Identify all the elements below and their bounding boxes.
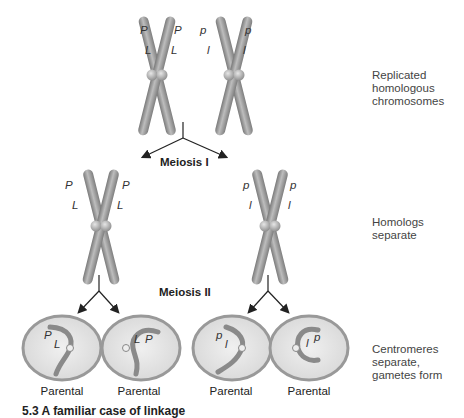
allele-label: l — [243, 44, 246, 57]
allele-label: l — [288, 199, 291, 212]
stage-label-line: homologous — [372, 82, 444, 95]
step-label-meiosis1: Meiosis I — [160, 156, 209, 168]
gamete-cell-3 — [193, 316, 271, 380]
allele-label: p — [245, 24, 251, 37]
allele-label: l — [207, 44, 210, 57]
allele-label: L — [134, 333, 140, 346]
stage-label-line: Homologs — [372, 216, 424, 229]
allele-label: P — [174, 24, 182, 37]
stage-label-line: separate — [372, 229, 424, 242]
allele-label: L — [145, 44, 151, 57]
allele-label: P — [65, 179, 73, 192]
step-label-meiosis2: Meiosis II — [159, 286, 211, 298]
stage-label-line: separate, — [372, 356, 442, 369]
allele-label: p — [200, 24, 206, 37]
allele-label: L — [171, 44, 177, 57]
allele-label: p — [290, 179, 296, 192]
stage-label-centromeres: Centromeres separate, gametes form — [372, 343, 442, 382]
allele-label: p — [216, 329, 222, 342]
gamete-label: Parental — [196, 385, 266, 397]
gamete-label: Parental — [27, 385, 97, 397]
stage-label-replicated: Replicated homologous chromosomes — [372, 69, 444, 108]
gamete-cell-4 — [270, 316, 348, 380]
allele-label: l — [306, 337, 309, 350]
allele-label: P — [122, 179, 130, 192]
allele-label: l — [225, 338, 228, 351]
figure-caption: 5.3 A familiar case of linkage — [22, 404, 185, 418]
stage-label-line: gametes form — [372, 369, 442, 382]
chromosome-middle-right — [251, 169, 290, 286]
chromosome-middle-left — [82, 169, 121, 286]
gamete-label: Parental — [274, 385, 344, 397]
gamete-label: Parental — [104, 385, 174, 397]
allele-label: p — [243, 179, 249, 192]
gamete-cell-2 — [102, 316, 180, 380]
gamete-cell-1 — [23, 316, 101, 380]
allele-label: L — [72, 199, 78, 212]
allele-label: P — [140, 24, 148, 37]
allele-label: l — [249, 199, 252, 212]
stage-label-homologs: Homologs separate — [372, 216, 424, 242]
stage-label-line: Replicated — [372, 69, 444, 82]
allele-label: p — [314, 331, 320, 344]
allele-label: P — [44, 329, 52, 342]
allele-label: L — [54, 338, 60, 351]
stage-label-line: Centromeres — [372, 343, 442, 356]
allele-label: P — [145, 333, 153, 346]
allele-label: L — [117, 199, 123, 212]
meiosis1-arrows — [143, 122, 226, 157]
stage-label-line: chromosomes — [372, 95, 444, 108]
